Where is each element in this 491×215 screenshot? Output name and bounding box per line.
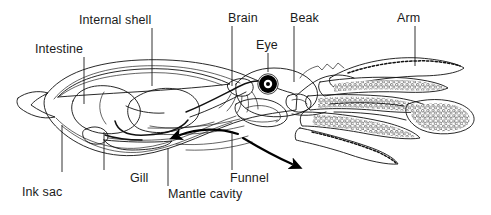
jet-expulsion-arrow — [243, 138, 292, 164]
eye — [258, 74, 278, 94]
funnel — [235, 99, 287, 127]
arm-2-suckers — [334, 80, 445, 92]
arms-group — [295, 58, 474, 164]
label-funnel: Funnel — [230, 171, 269, 185]
label-mantle-cavity: Mantle cavity — [168, 187, 243, 201]
tail-fin — [17, 92, 55, 118]
label-intestine: Intestine — [35, 42, 83, 56]
brain — [219, 79, 258, 113]
label-beak: Beak — [290, 11, 320, 25]
flow-arrows — [180, 130, 292, 164]
label-brain: Brain — [228, 11, 258, 25]
label-ink-sac: Ink sac — [22, 185, 62, 199]
label-gill: Gill — [130, 171, 148, 185]
label-internal-shell: Internal shell — [79, 13, 151, 27]
squid-anatomy-diagram: Intestine Internal shell Brain Eye Beak … — [0, 0, 491, 215]
label-eye: Eye — [256, 38, 278, 52]
diagram-canvas: Intestine Internal shell Brain Eye Beak … — [0, 0, 491, 215]
mantle-inner-wall — [54, 66, 240, 99]
mantle-body — [17, 60, 297, 156]
digestive-gland — [72, 86, 141, 134]
label-arm: Arm — [397, 11, 420, 25]
